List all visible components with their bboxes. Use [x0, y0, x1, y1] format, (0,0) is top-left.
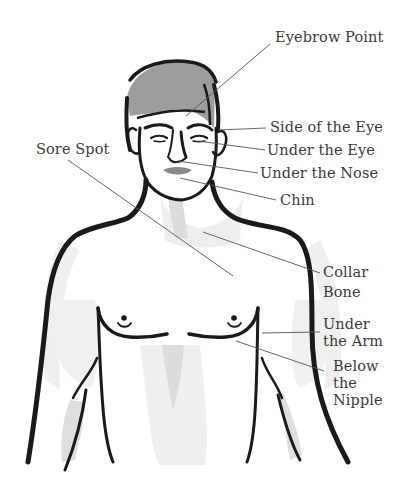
label-below-the-nipple: Below the Nipple	[333, 358, 383, 409]
label-side-of-the-eye: Side of the Eye	[270, 119, 383, 135]
label-sore-spot: Sore Spot	[36, 141, 109, 157]
label-below-the-nipple-line-3: Nipple	[333, 392, 383, 409]
label-under-the-arm-line-1: Under	[323, 316, 383, 333]
label-under-the-eye: Under the Eye	[267, 142, 375, 158]
lips	[163, 167, 192, 175]
label-below-the-nipple-line-1: Below	[333, 358, 383, 375]
label-eyebrow-point: Eyebrow Point	[275, 29, 383, 45]
label-chin: Chin	[280, 192, 315, 208]
label-below-the-nipple-line-2: the	[333, 375, 383, 392]
tapping-points-diagram: Eyebrow Point Side of the Eye Under the …	[0, 0, 406, 499]
label-collar-bone: Collar Bone	[323, 262, 368, 302]
label-under-the-nose: Under the Nose	[260, 165, 378, 181]
label-under-the-arm: Under the Arm	[323, 316, 383, 350]
label-under-the-arm-line-2: the Arm	[323, 333, 383, 350]
label-collar-bone-line-2: Bone	[323, 282, 368, 302]
label-collar-bone-line-1: Collar	[323, 262, 368, 282]
body-illustration	[0, 0, 406, 499]
